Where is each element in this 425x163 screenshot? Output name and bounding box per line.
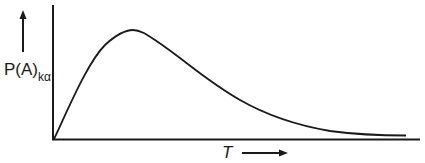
figure: P(A)kα T xyxy=(0,0,425,163)
plot-svg xyxy=(0,0,425,163)
x-axis-label: T xyxy=(222,143,232,163)
y-axis-label: P(A)kα xyxy=(4,60,51,82)
up-arrow-icon xyxy=(20,10,27,52)
distribution-curve xyxy=(54,30,406,139)
right-arrow-icon xyxy=(242,150,288,157)
